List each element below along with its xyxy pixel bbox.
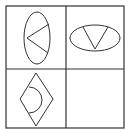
down-chevron-shape [83,27,108,49]
left-chevron-shape [27,24,49,53]
horizontal-ellipse-shape [70,25,120,51]
semicircle-shape [29,87,42,113]
cell-top-right [70,25,120,51]
cell-top-left [24,12,50,64]
grid-outer-border [6,6,124,128]
cell-bottom-left [20,73,53,126]
diamond-shape [20,73,53,126]
figure-grid-puzzle [0,0,130,133]
